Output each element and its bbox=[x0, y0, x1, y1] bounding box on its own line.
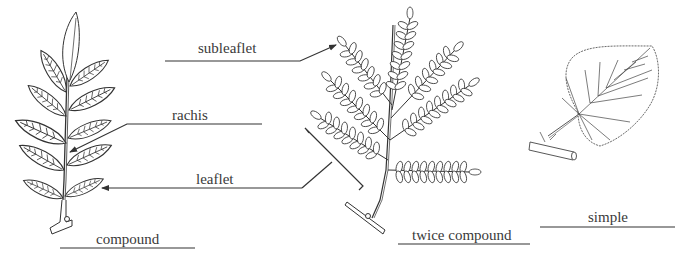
label-rachis: rachis bbox=[172, 108, 208, 123]
label-subleaflet: subleaflet bbox=[198, 41, 256, 56]
label-simple: simple bbox=[588, 210, 628, 225]
compound-leaf-drawing bbox=[12, 12, 118, 234]
diagram-artwork bbox=[0, 0, 683, 259]
simple-leaf-drawing bbox=[529, 46, 659, 160]
leaf-types-diagram: subleaflet rachis leaflet compound twice… bbox=[0, 0, 683, 259]
twice-compound-leaf-drawing bbox=[309, 7, 481, 234]
label-compound: compound bbox=[96, 232, 159, 247]
label-twice-compound: twice compound bbox=[412, 228, 512, 243]
label-leaflet: leaflet bbox=[196, 172, 233, 187]
